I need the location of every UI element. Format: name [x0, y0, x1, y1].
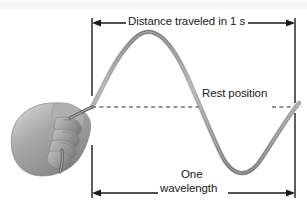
one-wavelength-label-line2: wavelength — [158, 182, 219, 195]
rope-wave-curve — [92, 32, 299, 173]
rest-position-label: Rest position — [200, 87, 269, 100]
distance-traveled-label: Distance traveled in 1 s — [126, 15, 247, 28]
diagram-graphics — [0, 0, 307, 222]
wave-diagram-figure: Distance traveled in 1 s Rest position O… — [0, 0, 307, 222]
hand-illustration — [11, 103, 92, 176]
one-wavelength-label-line1: One — [179, 168, 204, 181]
